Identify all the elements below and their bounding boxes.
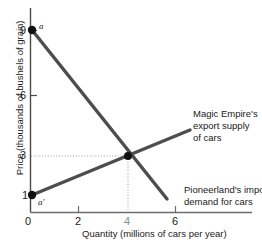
x-tick-label-4: 4 <box>124 216 130 227</box>
supply-annot-line1: Magic Empire's <box>193 108 258 120</box>
demand-annot-line1: Pioneerland's import <box>184 184 262 196</box>
x-tick-label-6: 6 <box>172 216 178 227</box>
point-a-label: a <box>39 22 44 31</box>
x-axis-title: Quantity (millions of cars per year) <box>82 229 227 239</box>
supply-curve-annotation: Magic Empire's export supply of cars <box>193 108 258 144</box>
point-a-prime-marker[interactable] <box>28 191 36 199</box>
supply-annot-line2: export supply <box>193 120 258 132</box>
point-a-marker[interactable] <box>28 26 36 34</box>
supply-annot-line3: of cars <box>193 132 258 144</box>
demand-annot-line2: demand for cars <box>184 196 262 208</box>
economics-chart: 9 6 3 1 0 2 4 6 a a' Price (thousands of… <box>0 0 262 243</box>
supply-curve[interactable] <box>32 130 190 195</box>
y-axis-title: Price (thousands of bushels of grain) <box>15 25 25 175</box>
equilibrium-point-marker[interactable] <box>124 152 132 160</box>
demand-curve-annotation: Pioneerland's import demand for cars <box>184 184 262 208</box>
point-a-prime-label: a' <box>38 198 44 207</box>
y-tick-label-1: 1 <box>22 190 28 201</box>
x-tick-label-2: 2 <box>75 216 81 227</box>
demand-curve[interactable] <box>32 30 167 199</box>
x-tick-label-0: 0 <box>25 216 31 227</box>
